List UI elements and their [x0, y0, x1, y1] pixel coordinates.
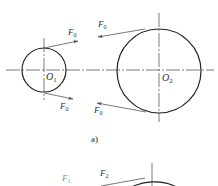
- o1-label: O1: [46, 71, 57, 84]
- part-a: O1 O2 F0 F0 F0 F0 a): [6, 13, 214, 144]
- o2-label: O2: [162, 72, 173, 85]
- force-label-upper-right: F0: [97, 19, 107, 30]
- belt-tension-diagram: O1 O2 F0 F0 F0 F0 a) F2 F1: [0, 0, 218, 186]
- force-label-f1: F1: [61, 173, 71, 184]
- caption-a: a): [91, 134, 98, 144]
- part-b: F2 F1: [61, 163, 180, 186]
- force-label-upper-left: F0: [67, 27, 77, 38]
- force-label-lower-right: F0: [93, 105, 103, 116]
- force-label-f2: F2: [99, 168, 109, 179]
- force-arrow-upper-right: [98, 29, 145, 37]
- force-arrow-lower-left: [44, 93, 73, 99]
- part-b-pulley-arc: [126, 182, 180, 186]
- force-label-lower-left: F0: [59, 101, 69, 112]
- force-arrow-upper-left: [44, 41, 78, 48]
